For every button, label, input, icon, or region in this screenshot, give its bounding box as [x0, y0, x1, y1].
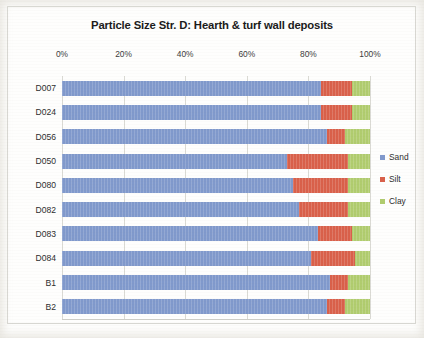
- bar-segment-silt: [327, 299, 345, 314]
- bar-segment-silt: [299, 202, 348, 217]
- plot-area: [62, 76, 370, 319]
- y-tick-label: B1: [45, 278, 56, 288]
- bar-segment-clay: [348, 154, 370, 169]
- bar-segment-silt: [318, 226, 352, 241]
- bar-row: [62, 226, 370, 241]
- x-tick-label: 40%: [177, 49, 194, 59]
- bar-segment-sand: [62, 275, 330, 290]
- y-tick-label: D007: [35, 83, 56, 93]
- x-tick-label: 60%: [238, 49, 255, 59]
- bar-segment-clay: [355, 251, 370, 266]
- bar-segment-sand: [62, 202, 299, 217]
- bar-segment-clay: [345, 299, 370, 314]
- bar-segment-sand: [62, 299, 327, 314]
- legend-swatch-icon: [380, 155, 385, 160]
- x-axis-tick-labels: 0%20%40%60%80%100%: [0, 49, 424, 65]
- chart-screenshot: Particle Size Str. D: Hearth & turf wall…: [0, 0, 424, 338]
- bar-segment-silt: [327, 129, 345, 144]
- legend-item-silt[interactable]: Silt: [380, 168, 422, 190]
- y-tick-label: D050: [35, 156, 56, 166]
- y-tick-label: D083: [35, 229, 56, 239]
- x-tick-label: 20%: [115, 49, 132, 59]
- bar-segment-silt: [311, 251, 354, 266]
- bar-row: [62, 202, 370, 217]
- x-tick-label: 0%: [56, 49, 68, 59]
- bar-segment-clay: [348, 275, 370, 290]
- bar-row: [62, 178, 370, 193]
- bar-row: [62, 299, 370, 314]
- bar-segment-silt: [321, 105, 352, 120]
- bar-segment-clay: [352, 105, 370, 120]
- bar-segment-silt: [321, 81, 352, 96]
- bar-row: [62, 275, 370, 290]
- bar-segment-silt: [293, 178, 348, 193]
- y-tick-label: D082: [35, 205, 56, 215]
- chart-legend: SandSiltClay: [380, 146, 422, 212]
- legend-swatch-icon: [380, 177, 385, 182]
- bar-segment-clay: [348, 178, 370, 193]
- bar-segment-sand: [62, 251, 311, 266]
- bar-segment-sand: [62, 154, 287, 169]
- legend-label: Clay: [389, 196, 406, 206]
- bar-segment-sand: [62, 178, 293, 193]
- bar-row: [62, 251, 370, 266]
- bar-row: [62, 81, 370, 96]
- bar-row: [62, 105, 370, 120]
- bar-segment-clay: [348, 202, 370, 217]
- bar-segment-silt: [287, 154, 349, 169]
- bar-segment-clay: [345, 129, 370, 144]
- bar-row: [62, 129, 370, 144]
- x-tick-label: 100%: [359, 49, 380, 59]
- legend-label: Sand: [389, 152, 409, 162]
- x-tick-label: 80%: [300, 49, 317, 59]
- bar-segment-silt: [330, 275, 348, 290]
- bar-segment-sand: [62, 129, 327, 144]
- legend-swatch-icon: [380, 199, 385, 204]
- bar-segment-clay: [352, 81, 370, 96]
- bar-segment-sand: [62, 81, 321, 96]
- legend-label: Silt: [389, 174, 401, 184]
- legend-item-sand[interactable]: Sand: [380, 146, 422, 168]
- bar-row: [62, 154, 370, 169]
- y-axis-category-labels: D007D024D056D050D080D082D083D084B1B2: [0, 76, 56, 319]
- chart-title: Particle Size Str. D: Hearth & turf wall…: [0, 19, 424, 31]
- y-tick-label: B2: [45, 302, 56, 312]
- gridline: [370, 76, 371, 319]
- y-tick-label: D080: [35, 180, 56, 190]
- y-tick-label: D024: [35, 107, 56, 117]
- legend-item-clay[interactable]: Clay: [380, 190, 422, 212]
- bar-segment-sand: [62, 226, 318, 241]
- y-tick-label: D056: [35, 132, 56, 142]
- axis-baseline: [62, 319, 370, 320]
- y-tick-label: D084: [35, 253, 56, 263]
- bar-segment-sand: [62, 105, 321, 120]
- bar-segment-clay: [352, 226, 370, 241]
